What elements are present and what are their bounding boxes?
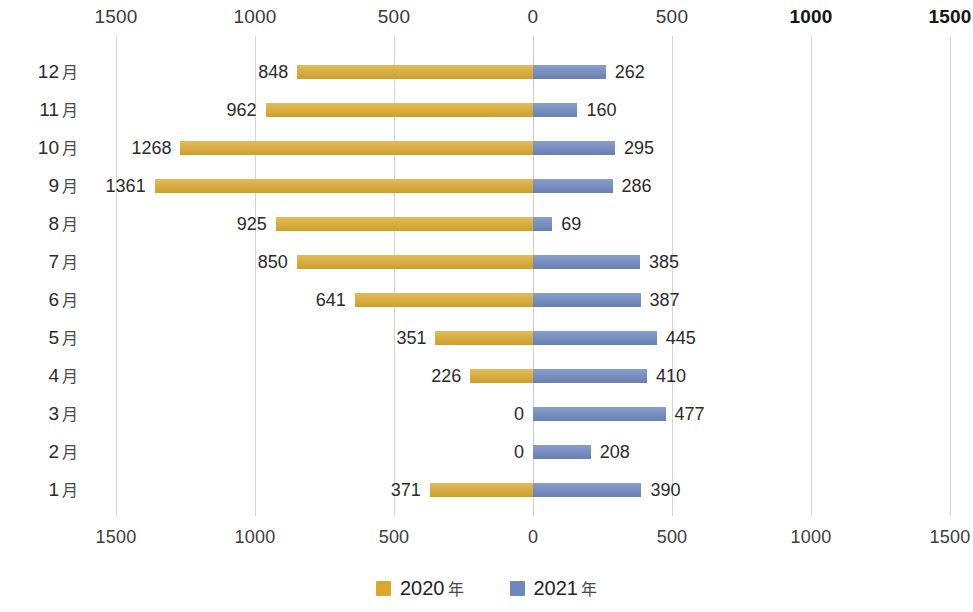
category-row: 5月351445: [0, 319, 973, 357]
bar-2020[interactable]: [155, 179, 533, 193]
data-label-2021: 477: [666, 397, 705, 431]
category-row: 11月962160: [0, 91, 973, 129]
category-label-number: 10: [38, 137, 59, 158]
bar-2020[interactable]: [355, 293, 533, 307]
data-label-2021: 286: [613, 169, 652, 203]
category-row: 6月641387: [0, 281, 973, 319]
category-row: 3月0477: [0, 395, 973, 433]
category-label-number: 2: [48, 441, 59, 462]
category-label-unit: 月: [62, 368, 78, 385]
category-label-unit: 月: [62, 102, 78, 119]
category-label: 2月: [0, 433, 78, 472]
category-row: 9月1361286: [0, 167, 973, 205]
data-label-2021: 160: [577, 93, 616, 127]
bottom-axis-tick-1: 1000: [235, 524, 276, 550]
legend-item-2021[interactable]: 2021年: [510, 576, 598, 600]
data-label-2020: 226: [431, 359, 470, 393]
category-label-number: 5: [48, 327, 59, 348]
top-axis-tick-4: 500: [656, 4, 688, 30]
data-label-2020: 0: [514, 435, 533, 469]
category-row: 12月848262: [0, 53, 973, 91]
category-label-unit: 月: [62, 330, 78, 347]
category-label-number: 7: [48, 251, 59, 272]
category-row: 1月371390: [0, 471, 973, 509]
category-label: 5月: [0, 319, 78, 358]
bottom-axis-tick-3: 0: [528, 524, 538, 550]
category-label: 6月: [0, 281, 78, 320]
plot-area: 12月84826211月96216010月12682959月13612868月9…: [0, 36, 973, 516]
category-label: 12月: [0, 53, 78, 92]
category-label-unit: 月: [62, 140, 78, 157]
bar-2021[interactable]: [533, 217, 552, 231]
top-axis-tick-0: 1500: [94, 4, 137, 30]
category-row: 10月1268295: [0, 129, 973, 167]
legend-label-suffix: 年: [581, 581, 597, 598]
category-label-number: 11: [39, 99, 59, 120]
bar-2021[interactable]: [533, 483, 641, 497]
legend-label: 2020年: [400, 576, 464, 600]
bar-2020[interactable]: [435, 331, 533, 345]
category-label-number: 1: [48, 479, 59, 500]
bar-2020[interactable]: [297, 65, 533, 79]
category-label: 11月: [0, 91, 78, 130]
legend-label-year: 2021: [534, 577, 579, 599]
bar-2020[interactable]: [276, 217, 533, 231]
bar-2021[interactable]: [533, 407, 666, 421]
bottom-axis-tick-4: 500: [657, 524, 688, 550]
legend-label-year: 2020: [400, 577, 445, 599]
category-label-unit: 月: [62, 292, 78, 309]
bar-2021[interactable]: [533, 293, 641, 307]
bottom-axis-tick-2: 500: [379, 524, 410, 550]
legend-swatch-2021-icon: [510, 581, 525, 596]
bar-2020[interactable]: [430, 483, 533, 497]
category-label-number: 12: [38, 61, 59, 82]
category-label-number: 3: [48, 403, 59, 424]
category-label-number: 6: [48, 289, 59, 310]
bar-2021[interactable]: [533, 445, 591, 459]
data-label-2021: 262: [606, 55, 645, 89]
category-row: 2月0208: [0, 433, 973, 471]
legend-item-2020[interactable]: 2020年: [376, 576, 464, 600]
top-axis-tick-3: 0: [528, 4, 539, 30]
bottom-axis-tick-6: 1500: [930, 524, 971, 550]
bar-2021[interactable]: [533, 141, 615, 155]
legend-label-suffix: 年: [448, 581, 464, 598]
top-axis-tick-2: 500: [378, 4, 410, 30]
top-axis-tick-6: 1500: [928, 4, 971, 30]
category-label-unit: 月: [62, 444, 78, 461]
category-label: 10月: [0, 129, 78, 168]
bar-2020[interactable]: [180, 141, 533, 155]
bar-2021[interactable]: [533, 369, 647, 383]
data-label-2021: 445: [657, 321, 696, 355]
category-label-number: 4: [48, 365, 59, 386]
category-label-unit: 月: [62, 216, 78, 233]
category-label: 7月: [0, 243, 78, 282]
butterfly-bar-chart: 15001000500050010001500 12月84826211月9621…: [0, 0, 973, 612]
data-label-2020: 848: [258, 55, 297, 89]
bar-2020[interactable]: [470, 369, 533, 383]
category-label-unit: 月: [62, 64, 78, 81]
bar-2021[interactable]: [533, 331, 657, 345]
data-label-2021: 208: [591, 435, 630, 469]
bar-2021[interactable]: [533, 103, 577, 117]
bar-2021[interactable]: [533, 65, 606, 79]
bar-2021[interactable]: [533, 179, 613, 193]
category-label: 9月: [0, 167, 78, 206]
data-label-2021: 295: [615, 131, 654, 165]
data-label-2021: 69: [552, 207, 581, 241]
top-axis-tick-5: 1000: [789, 4, 832, 30]
data-label-2020: 850: [258, 245, 297, 279]
bar-2020[interactable]: [266, 103, 533, 117]
top-axis-tick-1: 1000: [233, 4, 276, 30]
chart-legend: 2020年2021年: [0, 572, 973, 604]
data-label-2020: 962: [227, 93, 266, 127]
data-label-2020: 371: [391, 473, 430, 507]
bar-2020[interactable]: [297, 255, 533, 269]
category-label: 3月: [0, 395, 78, 434]
category-label-number: 9: [48, 175, 59, 196]
bottom-axis-tick-0: 1500: [96, 524, 137, 550]
category-label-unit: 月: [62, 406, 78, 423]
bar-2021[interactable]: [533, 255, 640, 269]
legend-label: 2021年: [534, 576, 598, 600]
data-label-2020: 1268: [131, 131, 180, 165]
